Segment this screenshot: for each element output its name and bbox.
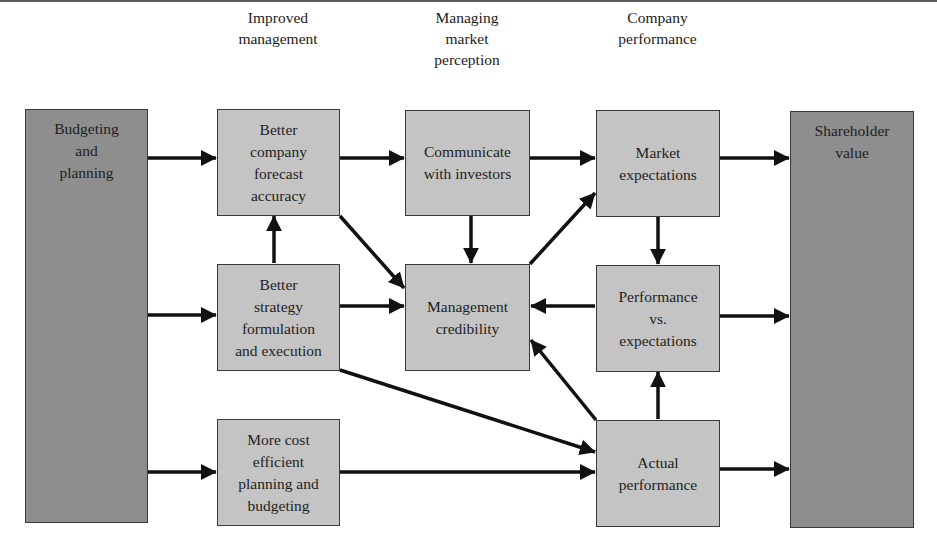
arrow-actual-to-credibility: [531, 340, 596, 420]
node-performance-vs-expectations: Performance vs. expectations: [596, 265, 720, 372]
node-label: Management credibility: [427, 296, 508, 340]
node-label: Better company forecast accuracy: [250, 119, 307, 207]
node-label: Communicate with investors: [424, 141, 511, 185]
node-more-cost-efficient-planning: More cost efficient planning and budgeti…: [217, 419, 340, 526]
node-label: Shareholder value: [815, 120, 890, 164]
node-market-expectations: Market expectations: [596, 110, 720, 217]
node-budgeting-and-planning: Budgeting and planning: [25, 109, 148, 523]
node-label: Actual performance: [619, 452, 697, 496]
node-label: Market expectations: [619, 142, 696, 186]
node-label: Budgeting and planning: [54, 118, 119, 184]
node-better-company-forecast-accuracy: Better company forecast accuracy: [217, 109, 340, 216]
node-better-strategy-formulation: Better strategy formulation and executio…: [217, 264, 340, 371]
node-shareholder-value: Shareholder value: [790, 111, 914, 528]
node-actual-performance: Actual performance: [596, 420, 720, 527]
arrow-credibility-to-market-expectations: [530, 193, 595, 264]
arrow-strategy-to-actual: [340, 370, 595, 452]
node-label: Better strategy formulation and executio…: [235, 274, 322, 362]
node-label: More cost efficient planning and budgeti…: [238, 429, 319, 517]
node-communicate-with-investors: Communicate with investors: [405, 110, 530, 216]
node-label: Performance vs. expectations: [618, 286, 697, 352]
arrow-forecast-to-credibility: [340, 216, 404, 288]
node-management-credibility: Management credibility: [405, 264, 530, 371]
